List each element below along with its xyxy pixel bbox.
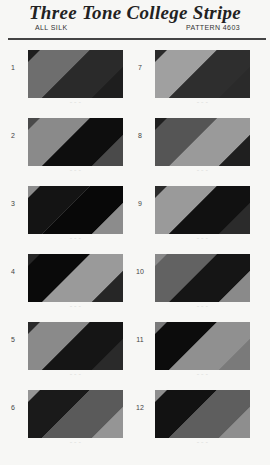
diagonal-stripe-icon — [28, 254, 123, 302]
diagonal-stripe-icon — [28, 118, 123, 166]
diagonal-stripe-icon — [28, 186, 123, 234]
swatch-number: 9 — [129, 200, 151, 207]
swatch-caption: ~ ~ ~ — [155, 168, 250, 173]
stripe-swatch — [28, 118, 123, 166]
swatch-number: 11 — [129, 336, 151, 343]
swatch-number: 5 — [2, 336, 24, 343]
diagonal-stripe-icon — [155, 390, 250, 438]
stripe-swatch — [155, 50, 250, 98]
diagonal-stripe-icon — [155, 186, 250, 234]
swatch-number: 3 — [2, 200, 24, 207]
swatch-caption: ~ ~ ~ — [155, 304, 250, 309]
swatch-card: 5~ ~ ~ — [2, 314, 130, 382]
stripe-swatch — [155, 186, 250, 234]
swatch-caption: ~ ~ ~ — [155, 236, 250, 241]
swatch-caption: ~ ~ ~ — [28, 440, 123, 445]
swatch-card: 10~ ~ ~ — [129, 246, 257, 314]
stripe-swatch — [155, 118, 250, 166]
swatch-card: 6~ ~ ~ — [2, 382, 130, 450]
swatch-number: 7 — [129, 64, 151, 71]
stripe-swatch — [28, 186, 123, 234]
stripe-swatch — [155, 254, 250, 302]
pattern-number-label: PATTERN 4603 — [186, 24, 240, 31]
swatch-card: 1~ ~ ~ — [2, 42, 130, 110]
swatch-number: 4 — [2, 268, 24, 275]
swatch-card: 12~ ~ ~ — [129, 382, 257, 450]
swatch-caption: ~ ~ ~ — [155, 100, 250, 105]
diagonal-stripe-icon — [28, 50, 123, 98]
diagonal-stripe-icon — [155, 254, 250, 302]
stripe-swatch — [28, 322, 123, 370]
material-label: ALL SILK — [35, 24, 68, 31]
diagonal-stripe-icon — [155, 50, 250, 98]
stripe-swatch — [28, 254, 123, 302]
stripe-swatch — [28, 390, 123, 438]
swatch-card: 2~ ~ ~ — [2, 110, 130, 178]
swatch-card: 4~ ~ ~ — [2, 246, 130, 314]
swatch-number: 8 — [129, 132, 151, 139]
stripe-swatch — [28, 50, 123, 98]
diagonal-stripe-icon — [155, 118, 250, 166]
swatch-card: 7~ ~ ~ — [129, 42, 257, 110]
swatch-card: 8~ ~ ~ — [129, 110, 257, 178]
swatch-card: 3~ ~ ~ — [2, 178, 130, 246]
swatch-number: 12 — [129, 404, 151, 411]
swatch-number: 10 — [129, 268, 151, 275]
swatch-card: 9~ ~ ~ — [129, 178, 257, 246]
page-title: Three Tone College Stripe — [0, 2, 270, 24]
stripe-swatch — [155, 322, 250, 370]
diagonal-stripe-icon — [28, 322, 123, 370]
diagonal-stripe-icon — [155, 322, 250, 370]
swatch-caption: ~ ~ ~ — [28, 168, 123, 173]
swatch-number: 6 — [2, 404, 24, 411]
swatch-caption: ~ ~ ~ — [28, 372, 123, 377]
header-divider — [8, 38, 266, 40]
stripe-swatch — [155, 390, 250, 438]
swatch-number: 1 — [2, 64, 24, 71]
swatch-caption: ~ ~ ~ — [28, 304, 123, 309]
swatch-caption: ~ ~ ~ — [155, 372, 250, 377]
swatch-caption: ~ ~ ~ — [155, 440, 250, 445]
swatch-caption: ~ ~ ~ — [28, 100, 123, 105]
swatch-number: 2 — [2, 132, 24, 139]
diagonal-stripe-icon — [28, 390, 123, 438]
swatch-caption: ~ ~ ~ — [28, 236, 123, 241]
swatch-card: 11~ ~ ~ — [129, 314, 257, 382]
